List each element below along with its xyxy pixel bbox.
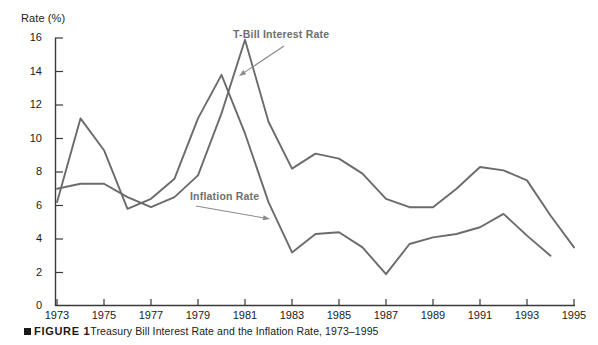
x-tick-label-1991: 1991 [458, 309, 502, 321]
x-tick-label-1983: 1983 [270, 309, 314, 321]
series-annotation-inflation-rate: Inflation Rate [190, 190, 259, 202]
series-annotation-t-bill-interest-rate: T-Bill Interest Rate [233, 28, 329, 40]
x-tick-label-1987: 1987 [364, 309, 408, 321]
y-tick-label-8: 8 [14, 165, 42, 177]
x-tick-label-1995: 1995 [552, 309, 596, 321]
x-tick-label-1993: 1993 [505, 309, 549, 321]
line-chart-plot [0, 0, 598, 345]
x-tick-label-1985: 1985 [317, 309, 361, 321]
figure-container: Rate (%) [0, 0, 598, 345]
figure-caption: FIGURE 1Treasury Bill Interest Rate and … [24, 325, 379, 337]
caption-figure-label: FIGURE 1 [34, 325, 90, 337]
caption-square-marker-icon [24, 328, 31, 335]
y-tick-label-2: 2 [14, 266, 42, 278]
y-tick-label-10: 10 [14, 132, 42, 144]
x-tick-label-1981: 1981 [223, 309, 267, 321]
y-tick-label-16: 16 [14, 31, 42, 43]
x-tick-label-1973: 1973 [35, 309, 79, 321]
caption-text: Treasury Bill Interest Rate and the Infl… [90, 325, 378, 337]
y-tick-label-14: 14 [14, 65, 42, 77]
series-line-t-bill-interest-rate [57, 40, 574, 248]
x-tick-label-1977: 1977 [129, 309, 173, 321]
series-line-inflation-rate [57, 75, 551, 274]
y-tick-label-12: 12 [14, 98, 42, 110]
x-tick-label-1975: 1975 [82, 309, 126, 321]
y-tick-label-4: 4 [14, 232, 42, 244]
x-tick-label-1989: 1989 [411, 309, 455, 321]
y-tick-label-6: 6 [14, 199, 42, 211]
x-tick-label-1979: 1979 [176, 309, 220, 321]
